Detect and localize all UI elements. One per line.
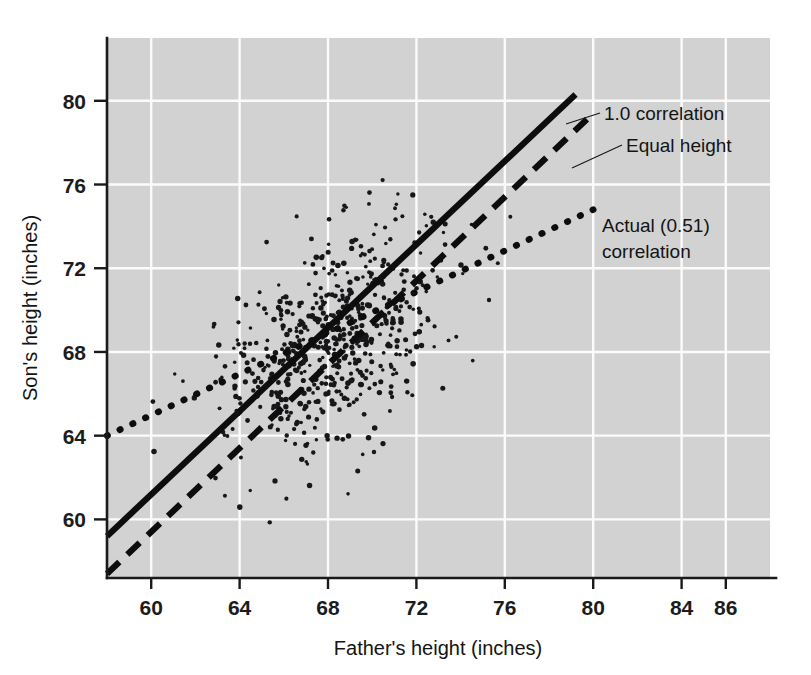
- scatter-point: [303, 404, 308, 409]
- scatter-point: [368, 259, 372, 263]
- scatter-point: [425, 316, 429, 320]
- scatter-point: [231, 427, 235, 431]
- scatter-point: [350, 326, 355, 331]
- scatter-point: [353, 357, 357, 361]
- scatter-point: [325, 314, 329, 318]
- scatter-point: [299, 457, 304, 462]
- scatter-point: [483, 246, 488, 251]
- scatter-point: [338, 390, 341, 393]
- scatter-point: [367, 202, 371, 206]
- scatter-point: [335, 263, 341, 269]
- scatter-point: [268, 520, 272, 524]
- scatter-point: [395, 202, 399, 206]
- annotation-one-correlation: 1.0 correlation: [604, 103, 724, 124]
- scatter-point: [383, 225, 387, 229]
- scatter-point: [349, 345, 354, 350]
- scatter-point: [268, 424, 273, 429]
- scatter-point: [267, 364, 271, 368]
- scatter-point: [342, 395, 347, 400]
- scatter-point: [355, 468, 360, 473]
- scatter-point: [311, 262, 316, 267]
- scatter-point: [363, 351, 368, 356]
- scatter-point: [251, 388, 256, 393]
- scatter-point: [331, 260, 336, 265]
- scatter-point: [440, 386, 445, 391]
- scatter-point: [232, 383, 237, 388]
- scatter-point: [425, 224, 429, 228]
- scatter-point: [382, 295, 386, 299]
- scatter-point: [317, 317, 322, 322]
- scatter-point: [327, 243, 331, 247]
- scatter-point: [295, 329, 299, 333]
- scatter-point: [326, 250, 331, 255]
- scatter-point: [355, 397, 359, 401]
- scatter-point: [151, 449, 157, 455]
- scatter-point: [341, 327, 346, 332]
- scatter-point: [264, 346, 269, 351]
- scatter-point: [212, 322, 217, 327]
- scatter-point: [288, 372, 292, 376]
- scatter-point: [272, 478, 277, 483]
- scatter-point: [242, 341, 246, 345]
- scatter-point: [432, 324, 436, 328]
- scatter-point: [256, 303, 260, 307]
- y-tick-label: 60: [63, 508, 86, 531]
- scatter-point: [399, 272, 403, 276]
- scatter-point: [316, 386, 320, 390]
- scatter-point: [262, 306, 267, 311]
- scatter-point: [338, 333, 342, 337]
- scatter-point: [327, 272, 331, 276]
- scatter-point: [387, 311, 391, 315]
- scatter-point: [461, 272, 464, 275]
- scatter-point: [388, 409, 392, 413]
- scatter-point: [508, 215, 512, 219]
- scatter-point: [281, 323, 286, 328]
- scatter-point: [337, 285, 341, 289]
- scatter-point: [357, 344, 361, 348]
- scatter-point: [340, 437, 345, 442]
- scatter-point: [337, 337, 342, 342]
- scatter-point: [243, 379, 248, 384]
- scatter-point: [285, 301, 289, 305]
- scatter-point: [235, 296, 240, 301]
- annotation-actual-correlation-line2: correlation: [602, 241, 691, 262]
- scatter-point: [345, 316, 349, 320]
- scatter-point: [404, 378, 409, 383]
- scatter-point: [393, 368, 397, 372]
- scatter-point: [404, 353, 408, 357]
- scatter-point: [405, 390, 409, 394]
- scatter-point: [150, 399, 155, 404]
- scatter-point: [297, 304, 301, 308]
- scatter-point: [391, 316, 395, 320]
- scatter-point: [382, 351, 386, 355]
- scatter-point: [266, 339, 270, 343]
- scatter-point: [417, 307, 421, 311]
- scatter-point: [341, 260, 347, 266]
- scatter-point: [279, 317, 283, 321]
- scatter-point: [340, 288, 344, 292]
- scatter-point: [299, 371, 303, 375]
- scatter-point: [307, 400, 312, 405]
- scatter-point: [332, 348, 336, 352]
- scatter-point: [271, 404, 277, 410]
- scatter-point: [300, 421, 303, 424]
- scatter-point: [249, 326, 253, 330]
- scatter-point: [496, 261, 500, 265]
- scatter-point: [347, 331, 352, 336]
- scatter-point: [265, 354, 270, 359]
- scatter-point: [383, 317, 387, 321]
- scatter-point: [239, 455, 243, 459]
- scatter-point: [295, 326, 298, 329]
- scatter-point: [225, 434, 229, 438]
- scatter-point: [324, 375, 328, 379]
- scatter-point: [311, 391, 315, 395]
- scatter-point: [328, 375, 333, 380]
- scatter-point: [374, 223, 378, 227]
- scatter-point: [369, 359, 374, 364]
- scatter-point: [245, 418, 250, 423]
- scatter-point: [319, 341, 323, 345]
- scatter-point: [313, 426, 317, 430]
- scatter-point: [365, 369, 369, 373]
- scatter-point: [348, 361, 352, 365]
- scatter-point: [320, 409, 325, 414]
